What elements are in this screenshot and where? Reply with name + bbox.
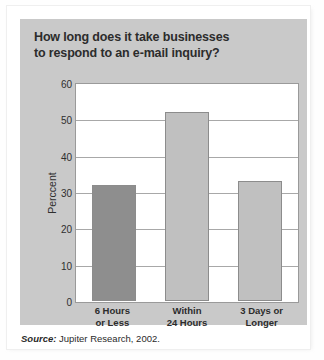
x-axis-label-line: Longer <box>224 317 299 329</box>
bar-series <box>77 85 297 301</box>
y-axis-tick-label: 10 <box>61 260 72 271</box>
x-axis-label: Within24 Hours <box>150 305 225 329</box>
source-text: Jupiter Research, 2002. <box>56 333 160 344</box>
bar <box>92 185 136 301</box>
figure-card: How long does it take businesses to resp… <box>6 5 311 350</box>
x-axis-label: 6 Hoursor Less <box>75 305 150 329</box>
chart-title-line-2: to respond to an e-mail inquiry? <box>34 45 296 61</box>
chart-title: How long does it take businesses to resp… <box>34 29 296 61</box>
y-axis-tick-label: 40 <box>61 151 72 162</box>
y-axis-tick-label: 30 <box>61 188 72 199</box>
bar-slot <box>150 85 223 301</box>
y-axis-tick-label: 60 <box>61 79 72 90</box>
page-background: How long does it take businesses to resp… <box>0 0 324 360</box>
source-label: Source: <box>21 333 56 344</box>
y-axis-tick-label: 50 <box>61 115 72 126</box>
y-axis-tick-label: 0 <box>66 297 72 308</box>
plot-area-wrapper: Perccent 0102030405060 6 Hoursor LessWit… <box>75 83 299 303</box>
x-axis-label-line: or Less <box>75 317 150 329</box>
y-axis-label: Perccent <box>46 172 58 213</box>
x-axis-label-line: 24 Hours <box>150 317 225 329</box>
y-axis-tick-label: 20 <box>61 224 72 235</box>
x-axis-labels: 6 Hoursor LessWithin24 Hours3 Days orLon… <box>75 305 299 329</box>
x-axis-label-line: 6 Hours <box>75 305 150 317</box>
plot-area: 0102030405060 <box>75 83 299 303</box>
x-axis-label-line: 3 Days or <box>224 305 299 317</box>
bar <box>165 112 209 301</box>
chart-panel: How long does it take businesses to resp… <box>20 19 307 325</box>
chart-title-line-1: How long does it take businesses <box>34 29 296 45</box>
bar <box>238 181 282 301</box>
bar-slot <box>77 85 150 301</box>
bar-slot <box>224 85 297 301</box>
source-note: Source: Jupiter Research, 2002. <box>21 333 160 344</box>
x-axis-label: 3 Days orLonger <box>224 305 299 329</box>
x-axis-label-line: Within <box>150 305 225 317</box>
